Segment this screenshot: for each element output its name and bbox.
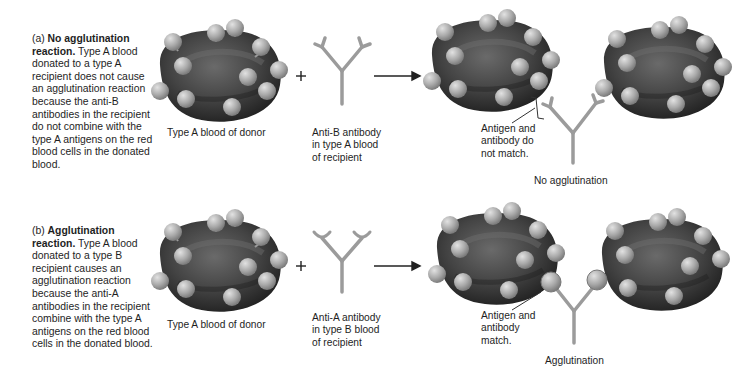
donor-label-b: Type A blood of donor bbox=[167, 319, 266, 331]
plus-icon bbox=[296, 71, 306, 271]
anti-b-antibody-icon bbox=[315, 38, 370, 104]
callout-label-a: Antigen and antibody do not match. bbox=[481, 123, 535, 160]
result-cell-a-left bbox=[423, 9, 560, 112]
result-cell-a-right bbox=[595, 16, 732, 119]
anti-a-antibody-icon bbox=[314, 232, 370, 292]
antibody-label-a: Anti-B antibody in type A blood of recip… bbox=[312, 127, 381, 164]
panel-b-description: (b) Agglutination reaction. Type A blood… bbox=[32, 225, 158, 351]
donor-red-blood-cell-b bbox=[151, 209, 288, 312]
result-label-a: No agglutination bbox=[534, 175, 608, 187]
panel-a-description: (a) No agglutination reaction. Type A bl… bbox=[32, 33, 158, 172]
donor-red-blood-cell-a bbox=[151, 19, 288, 122]
unbound-antibody-icon bbox=[543, 95, 603, 163]
reaction-arrow-icon bbox=[374, 72, 420, 270]
result-cell-b-right bbox=[602, 208, 730, 311]
callout-label-b: Antigen and antibody match. bbox=[481, 310, 535, 347]
bound-antigen-icon bbox=[541, 270, 607, 292]
bridging-antibody-icon bbox=[555, 285, 595, 343]
result-label-b: Agglutination bbox=[545, 355, 604, 367]
donor-label-a: Type A blood of donor bbox=[167, 127, 266, 139]
antibody-label-b: Anti-A antibody in type B blood of recip… bbox=[312, 312, 381, 349]
